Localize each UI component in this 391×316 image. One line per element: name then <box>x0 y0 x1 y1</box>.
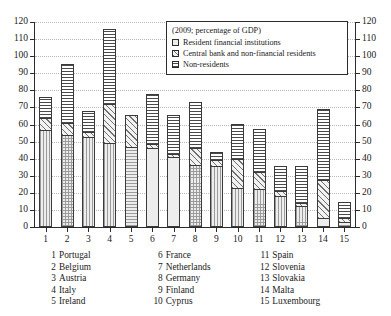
y-tick <box>30 22 34 23</box>
country-key-number: 12 <box>255 262 269 274</box>
y-tick <box>30 159 34 160</box>
y-tick <box>30 125 34 126</box>
bar-segment <box>61 135 74 227</box>
bar-segment <box>338 202 351 218</box>
country-key-item: 13Slovakia <box>255 273 362 285</box>
y-tick <box>30 73 34 74</box>
y-tick-label: 80 <box>362 85 388 95</box>
bar-segment <box>231 124 244 159</box>
y-tick-label: 90 <box>362 68 388 78</box>
bar-segment <box>274 166 287 191</box>
y-tick <box>30 142 34 143</box>
country-key: 1Portugal2Belgium3Austria4Italy5Ireland6… <box>42 250 362 308</box>
y-tick-label: 100 <box>2 51 28 61</box>
y-tick-label: 60 <box>362 120 388 130</box>
y-tick-label: 80 <box>2 85 28 95</box>
bar-segment <box>39 97 52 118</box>
y-tick <box>30 176 34 177</box>
bar-2 <box>61 64 74 227</box>
y-tick <box>30 90 34 91</box>
bar-segment <box>82 111 95 132</box>
y-tick <box>356 176 360 177</box>
country-key-item: 8Germany <box>149 273 256 285</box>
country-key-item: 14Malta <box>255 285 362 297</box>
y-tick-label: 110 <box>2 34 28 44</box>
legend: (2009; percentage of GDP) Resident finan… <box>166 21 348 75</box>
country-key-item: 7Netherlands <box>149 262 256 274</box>
bar-segment <box>146 144 159 148</box>
country-key-name: Malta <box>272 285 294 297</box>
bar-segment <box>210 160 223 165</box>
bar-14 <box>317 109 330 227</box>
country-key-number: 14 <box>255 285 269 297</box>
gridline <box>35 90 355 91</box>
y-tick <box>356 107 360 108</box>
bar-segment <box>82 137 95 227</box>
x-tick <box>238 228 239 232</box>
country-key-number: 13 <box>255 273 269 285</box>
x-tick <box>280 228 281 232</box>
x-tick <box>323 228 324 232</box>
bar-segment <box>317 109 330 180</box>
bar-segment <box>61 123 74 135</box>
bar-segment <box>167 157 180 227</box>
country-key-name: Italy <box>59 285 76 297</box>
bar-15 <box>338 202 351 227</box>
country-key-number: 2 <box>42 262 56 274</box>
x-tick <box>131 228 132 232</box>
country-key-name: Slovenia <box>272 262 305 274</box>
legend-entries: Resident financial institutionsCentral b… <box>172 37 343 70</box>
bar-segment <box>274 196 287 227</box>
y-tick <box>356 210 360 211</box>
country-key-name: Finland <box>166 285 194 297</box>
country-key-number: 15 <box>255 296 269 308</box>
bar-11 <box>253 129 266 227</box>
country-key-number: 7 <box>149 262 163 274</box>
bar-segment <box>167 154 180 157</box>
legend-swatch <box>172 39 179 46</box>
y-tick <box>356 125 360 126</box>
y-tick <box>30 56 34 57</box>
country-key-number: 4 <box>42 285 56 297</box>
bar-4 <box>103 29 116 227</box>
legend-label: Central bank and non-financial residents <box>183 48 316 59</box>
legend-swatch <box>172 50 179 57</box>
country-key-item: 6France <box>149 250 256 262</box>
bar-segment <box>338 218 351 221</box>
y-tick <box>356 90 360 91</box>
bar-segment <box>189 102 202 147</box>
legend-entry: Central bank and non-financial residents <box>172 48 343 59</box>
y-tick-label: 40 <box>362 154 388 164</box>
country-key-column: 1Portugal2Belgium3Austria4Italy5Ireland <box>42 250 149 308</box>
y-tick-label: 120 <box>2 17 28 27</box>
country-key-item: 11Spain <box>255 250 362 262</box>
legend-entry: Non-residents <box>172 59 343 70</box>
country-key-name: Germany <box>166 273 201 285</box>
bar-segment <box>189 148 202 165</box>
country-key-number: 1 <box>42 250 56 262</box>
bar-segment <box>103 143 116 227</box>
bar-segment <box>231 159 244 188</box>
y-tick <box>30 193 34 194</box>
country-key-item: 1Portugal <box>42 250 149 262</box>
legend-label: Resident financial institutions <box>183 37 281 48</box>
x-tick <box>67 228 68 232</box>
bar-segment <box>61 64 74 123</box>
bar-10 <box>231 124 244 227</box>
country-key-item: 9Finland <box>149 285 256 297</box>
country-key-name: France <box>166 250 191 262</box>
y-tick-label: 90 <box>2 68 28 78</box>
stacked-bar-chart: 0102030405060708090100110120 01020304050… <box>0 0 391 316</box>
x-tick <box>344 228 345 232</box>
y-tick <box>356 56 360 57</box>
bar-segment <box>253 189 266 227</box>
y-tick <box>30 107 34 108</box>
country-key-name: Slovakia <box>272 273 305 285</box>
country-key-name: Cyprus <box>166 296 193 308</box>
y-tick-label: 70 <box>2 102 28 112</box>
bar-segment <box>125 115 138 147</box>
bar-segment <box>103 29 116 104</box>
country-key-column: 11Spain12Slovenia13Slovakia14Malta15Luxe… <box>255 250 362 308</box>
bar-segment <box>295 206 308 227</box>
x-tick <box>216 228 217 232</box>
